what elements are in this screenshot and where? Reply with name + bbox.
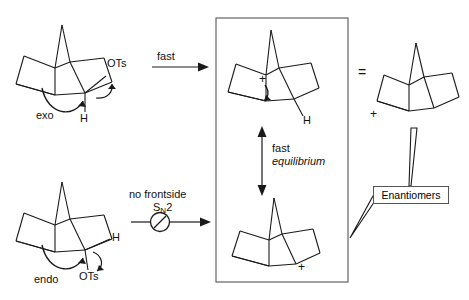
bottom-norbornyl-cation xyxy=(232,198,320,266)
equilibrium-arrow xyxy=(258,126,267,196)
endo-ots-label: OTs xyxy=(79,271,99,283)
endo-stereo-label: endo xyxy=(34,274,58,286)
endo-hydrogen-label: H xyxy=(112,232,120,244)
exo-ots-bond xyxy=(85,76,106,93)
no-entry-slash xyxy=(154,216,166,228)
endo-ch-bond xyxy=(85,239,110,250)
exo-leaving-arrow xyxy=(96,84,116,98)
right-cation-charge: + xyxy=(370,108,377,120)
exo-hydrogen-label: H xyxy=(80,113,88,125)
enantiomer-pointer-up xyxy=(409,128,417,186)
endo-leaving-arrow xyxy=(93,252,104,271)
equals-sign: = xyxy=(358,65,366,80)
reaction-scheme-svg xyxy=(0,0,469,300)
endo-ots-bond xyxy=(85,250,88,270)
enantiomers-callout: Enantiomers xyxy=(373,186,449,204)
enantiomers-label: Enantiomers xyxy=(382,189,441,201)
top-cation-charge: + xyxy=(259,73,266,85)
endo-participation-arrow xyxy=(42,245,86,269)
reaction-scheme: OTs H exo OTs H endo fast no frontside S… xyxy=(0,0,469,300)
exo-stereo-label: exo xyxy=(36,110,54,122)
top-cation-ch-bond xyxy=(294,99,303,116)
endo-tosylate-structure xyxy=(16,182,112,252)
sn2-2: 2 xyxy=(166,201,172,213)
exo-ots-label: OTs xyxy=(107,58,127,70)
equilibrium-label-equilibrium: equilibrium xyxy=(272,156,325,168)
right-norbornyl-cation xyxy=(377,43,459,111)
fast-reaction-arrow xyxy=(152,63,209,72)
equilibrium-label-fast: fast xyxy=(272,143,290,155)
top-norbornyl-cation xyxy=(228,30,319,101)
top-cation-hydrogen-label: H xyxy=(303,115,311,127)
top-cation-bridge-arrow xyxy=(264,85,271,101)
blocked-arrow-label-line2: SN2 xyxy=(153,202,172,215)
bottom-cation-charge: + xyxy=(298,261,305,273)
exo-tosylate-structure xyxy=(16,25,112,95)
blocked-arrow-label-line1: no frontside xyxy=(129,189,186,201)
fast-arrow-label: fast xyxy=(157,51,175,63)
